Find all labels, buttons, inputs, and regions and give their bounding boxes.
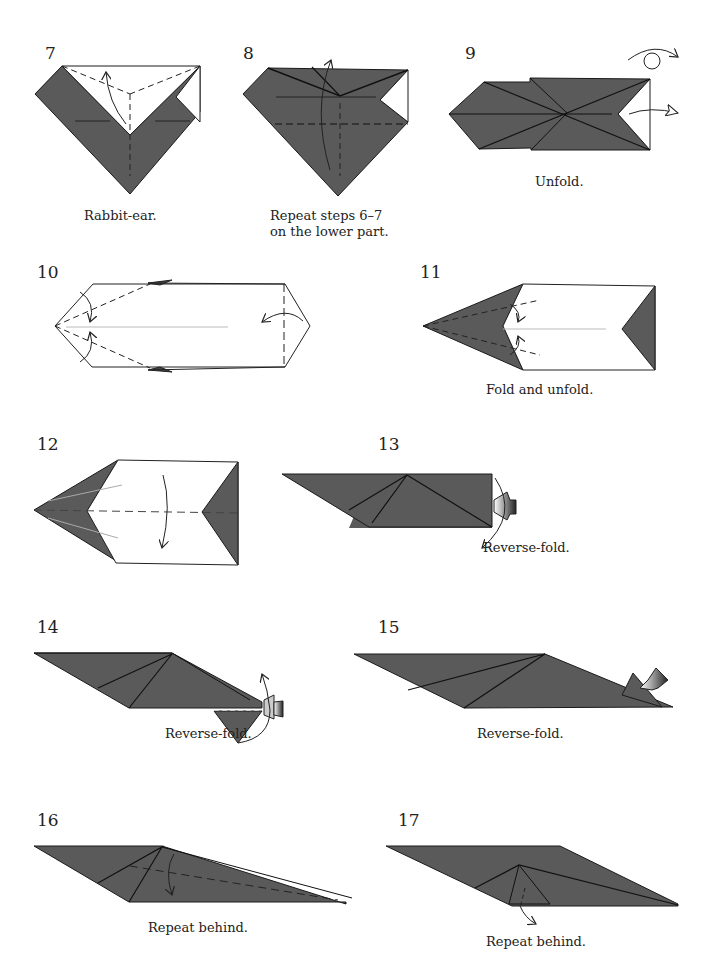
step-caption: Unfold.: [535, 174, 584, 190]
step-caption: Repeat behind.: [486, 934, 586, 950]
step-number: 8: [243, 43, 254, 63]
step-number: 12: [37, 434, 59, 454]
turn-over-icon: [628, 49, 678, 69]
step-number: 10: [37, 262, 59, 282]
step-number: 13: [378, 434, 400, 454]
step-10-diagram: [55, 280, 310, 372]
step-8-diagram: [243, 60, 408, 196]
step-caption: Reverse-fold.: [477, 726, 564, 742]
step-caption: Fold and unfold.: [486, 382, 593, 398]
step-caption: Reverse-fold.: [165, 726, 252, 742]
push-arrow-icon: [264, 695, 274, 719]
step-9-diagram: [449, 49, 678, 150]
step-number: 9: [465, 43, 476, 63]
step-caption: Repeat behind.: [148, 920, 248, 936]
step-number: 7: [45, 43, 56, 63]
step-caption: Rabbit-ear.: [84, 208, 157, 224]
step-caption: Reverse-fold.: [483, 540, 570, 556]
step-7-diagram: [35, 66, 200, 194]
step-15-diagram: [354, 654, 673, 708]
step-number: 16: [37, 810, 59, 830]
step-number: 14: [37, 617, 59, 637]
diagram-canvas: [0, 0, 720, 978]
step-16-diagram: [34, 846, 352, 904]
step-number: 17: [398, 810, 420, 830]
step-11-diagram: [423, 284, 655, 370]
step-number: 11: [420, 262, 442, 282]
step-12-diagram: [34, 460, 238, 565]
step-13-diagram: [282, 474, 516, 548]
step-17-diagram: [386, 846, 678, 924]
step-caption: on the lower part.: [270, 224, 389, 240]
step-caption: Repeat steps 6–7: [270, 208, 382, 224]
step-number: 15: [378, 617, 400, 637]
push-arrow-icon: [640, 668, 668, 690]
